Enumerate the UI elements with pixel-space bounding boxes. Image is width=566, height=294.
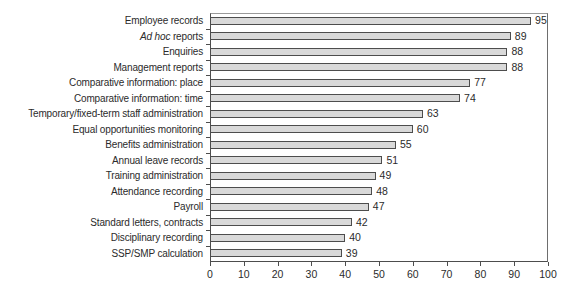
bar: [210, 218, 352, 226]
value-label: 51: [386, 153, 398, 169]
x-axis-tick-label: 70: [432, 268, 462, 280]
category-label: Comparative information: place: [0, 75, 203, 91]
x-axis-tick-label: 10: [229, 268, 259, 280]
category-label: Disciplinary recording: [0, 230, 203, 246]
category-label: Payroll: [0, 199, 203, 215]
y-axis-tick: [206, 60, 210, 61]
x-axis-tick: [379, 262, 380, 266]
category-label: Temporary/fixed-term staff administratio…: [0, 106, 203, 122]
bar: [210, 125, 413, 133]
bar: [210, 94, 460, 102]
value-label: 89: [515, 29, 527, 45]
category-label: Employee records: [0, 13, 203, 29]
x-axis-tick-label: 80: [465, 268, 495, 280]
x-axis-tick-label: 50: [364, 268, 394, 280]
bar: [210, 172, 376, 180]
category-label: Ad hoc reports: [0, 29, 203, 45]
x-axis-tick-label: 30: [296, 268, 326, 280]
value-label: 60: [417, 122, 429, 138]
category-label: Benefits administration: [0, 137, 203, 153]
bar: [210, 156, 382, 164]
x-axis-tick: [244, 262, 245, 266]
bar: [210, 17, 531, 25]
y-axis-tick: [206, 91, 210, 92]
category-label: Management reports: [0, 60, 203, 76]
bar: [210, 63, 507, 71]
category-label: Enquiries: [0, 44, 203, 60]
bar: [210, 32, 511, 40]
category-label: Training administration: [0, 168, 203, 184]
y-axis-tick: [206, 137, 210, 138]
x-axis-tick: [278, 262, 279, 266]
y-axis-tick: [206, 29, 210, 30]
category-label: Annual leave records: [0, 153, 203, 169]
value-label: 47: [373, 199, 385, 215]
x-axis-tick-label: 40: [330, 268, 360, 280]
category-label: Standard letters, contracts: [0, 215, 203, 231]
value-label: 88: [511, 60, 523, 76]
x-axis-tick: [447, 262, 448, 266]
italic-label-part: Ad hoc: [140, 31, 170, 42]
y-axis-tick: [206, 246, 210, 247]
y-axis-tick: [206, 44, 210, 45]
value-label: 77: [474, 75, 486, 91]
y-axis-tick: [206, 230, 210, 231]
y-axis-tick: [206, 106, 210, 107]
value-label: 55: [400, 137, 412, 153]
bar-chart: Employee records95Ad hoc reports89Enquir…: [0, 0, 566, 294]
x-axis-tick: [514, 262, 515, 266]
category-label: Equal opportunities monitoring: [0, 122, 203, 138]
x-axis-tick-label: 0: [195, 268, 225, 280]
y-axis-tick: [206, 75, 210, 76]
x-axis-tick: [413, 262, 414, 266]
y-axis-tick: [206, 122, 210, 123]
bar: [210, 234, 345, 242]
x-axis-tick-label: 60: [398, 268, 428, 280]
bar: [210, 141, 396, 149]
x-axis-tick-label: 90: [499, 268, 529, 280]
x-axis-tick: [345, 262, 346, 266]
value-label: 74: [464, 91, 476, 107]
y-axis-tick: [206, 199, 210, 200]
bar: [210, 48, 507, 56]
category-label: Attendance recording: [0, 184, 203, 200]
y-axis-tick: [206, 184, 210, 185]
x-axis-tick-label: 20: [263, 268, 293, 280]
y-axis-tick: [206, 215, 210, 216]
value-label: 48: [376, 184, 388, 200]
bar: [210, 110, 423, 118]
category-label: SSP/SMP calculation: [0, 246, 203, 262]
bar: [210, 203, 369, 211]
value-label: 63: [427, 106, 439, 122]
value-label: 39: [346, 246, 358, 262]
value-label: 95: [535, 13, 547, 29]
bar: [210, 187, 372, 195]
y-axis-tick: [206, 168, 210, 169]
x-axis-tick: [548, 262, 549, 266]
y-axis-tick: [206, 153, 210, 154]
x-axis-tick: [210, 262, 211, 266]
bar: [210, 79, 470, 87]
x-axis-tick: [480, 262, 481, 266]
value-label: 49: [380, 168, 392, 184]
x-axis-tick: [311, 262, 312, 266]
category-label: Comparative information: time: [0, 91, 203, 107]
value-label: 88: [511, 44, 523, 60]
x-axis-tick-label: 100: [533, 268, 563, 280]
value-label: 40: [349, 230, 361, 246]
bar: [210, 249, 342, 257]
value-label: 42: [356, 215, 368, 231]
